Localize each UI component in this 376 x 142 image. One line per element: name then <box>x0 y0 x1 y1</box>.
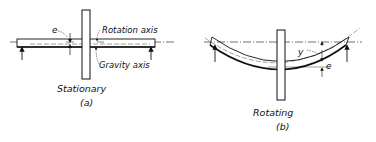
label-e: e <box>52 25 58 35</box>
label-gravity-axis: Gravity axis <box>99 60 150 70</box>
disk <box>277 30 285 100</box>
caption-letter-a: (a) <box>80 97 93 108</box>
diagram-canvas: e Rotation axis Gravity axis Stationary … <box>0 0 376 142</box>
label-e: e <box>326 61 332 71</box>
label-y: y <box>297 47 304 57</box>
caption-rotating: Rotating <box>253 107 293 118</box>
panel-a-stationary: e Rotation axis Gravity axis Stationary … <box>10 10 176 108</box>
disk <box>82 10 90 79</box>
rotating-shaft-diagram: e Rotation axis Gravity axis Stationary … <box>0 0 376 142</box>
caption-letter-b: (b) <box>276 121 289 132</box>
panel-b-rotating: y e Rotating (b) <box>204 28 362 132</box>
label-rotation-axis: Rotation axis <box>102 25 158 35</box>
caption-stationary: Stationary <box>57 83 107 94</box>
